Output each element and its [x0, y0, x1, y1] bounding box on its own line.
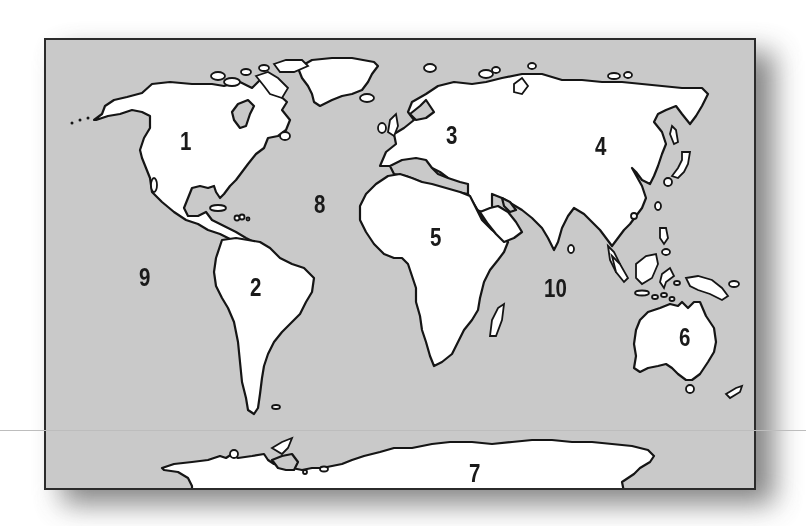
label-10-indian-ocean: 10 — [544, 276, 567, 301]
indonesian-island — [670, 297, 675, 301]
borneo — [636, 254, 658, 284]
arctic-island — [479, 70, 493, 78]
philippines-island — [662, 249, 670, 255]
tasmania — [686, 385, 694, 393]
sulawesi — [660, 268, 674, 288]
label-2-south-america: 2 — [250, 275, 261, 300]
japan-island — [664, 178, 672, 186]
new-guinea — [686, 276, 728, 300]
arctic-island — [608, 73, 620, 79]
new-zealand — [726, 386, 742, 398]
madagascar — [490, 304, 504, 336]
indonesian-island — [661, 293, 667, 297]
continent-south-america — [214, 238, 314, 414]
japan — [672, 152, 690, 178]
continent-australia — [634, 302, 716, 380]
aleutian-island — [87, 117, 90, 120]
hainan — [631, 213, 637, 219]
label-5-africa: 5 — [430, 225, 441, 250]
falkland-islands — [272, 405, 280, 409]
antarctic-peninsula — [272, 438, 292, 454]
aleutian-island — [79, 119, 82, 122]
ireland — [378, 123, 386, 133]
arctic-island — [211, 72, 225, 80]
solomon-islands — [729, 281, 739, 287]
scan-artifact-line — [0, 430, 806, 431]
arctic-island — [224, 78, 240, 86]
java — [635, 291, 649, 296]
label-1-north-america: 1 — [180, 129, 191, 154]
arctic-island — [259, 65, 269, 71]
svalbard — [424, 64, 436, 72]
caribbean-island — [240, 215, 245, 220]
caribbean-island — [247, 218, 250, 221]
arctic-island — [241, 69, 251, 75]
sumatra — [612, 256, 628, 282]
indonesian-island — [674, 281, 680, 285]
cuba — [210, 205, 226, 211]
world-map-frame: 1 2 3 4 5 6 7 8 9 10 — [44, 38, 756, 490]
sakhalin — [670, 126, 678, 144]
aleutian-island — [71, 122, 74, 125]
arctic-island — [624, 72, 632, 78]
taiwan — [655, 202, 661, 210]
label-3-europe: 3 — [446, 123, 457, 148]
label-8-atlantic-ocean: 8 — [314, 192, 325, 217]
antarctic-island — [230, 450, 238, 458]
label-4-asia: 4 — [595, 134, 606, 159]
indonesian-island — [652, 295, 658, 299]
label-9-pacific-ocean: 9 — [139, 265, 150, 290]
baja-island — [151, 178, 157, 192]
continent-north-america — [94, 80, 290, 252]
label-7-antarctica: 7 — [469, 461, 480, 486]
iceland — [360, 94, 374, 102]
label-6-australia: 6 — [679, 325, 690, 350]
antarctic-island — [320, 467, 328, 472]
sri-lanka — [568, 245, 574, 253]
continent-antarctica — [162, 440, 654, 490]
antarctic-island — [303, 470, 307, 474]
newfoundland — [280, 132, 290, 140]
philippines — [660, 228, 668, 244]
arctic-island — [528, 63, 536, 69]
arctic-island — [492, 67, 500, 73]
world-map-svg — [46, 40, 756, 490]
